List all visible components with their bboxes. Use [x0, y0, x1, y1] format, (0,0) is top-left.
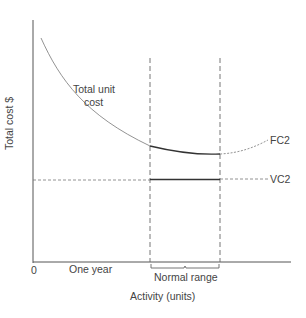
- curve-label-line1: Total unit: [73, 84, 115, 95]
- cost-diagram: Total cost $ Total unit cost FC2 VC2 0 O…: [0, 0, 306, 318]
- diagram-canvas: [0, 0, 306, 318]
- total-unit-cost-curve-normal-range: [150, 146, 220, 154]
- total-unit-cost-curve-right: [220, 140, 268, 154]
- curve-label-line2: cost: [84, 97, 103, 108]
- x-axis-label: Activity (units): [130, 291, 195, 302]
- y-axis-label: Total cost $: [4, 97, 15, 150]
- normal-range-bracket: [151, 264, 219, 268]
- one-year-label: One year: [69, 264, 112, 275]
- vc2-label: VC2: [270, 174, 290, 185]
- fc2-label: FC2: [270, 135, 290, 146]
- origin-label: 0: [31, 265, 37, 276]
- normal-range-label: Normal range: [154, 272, 218, 283]
